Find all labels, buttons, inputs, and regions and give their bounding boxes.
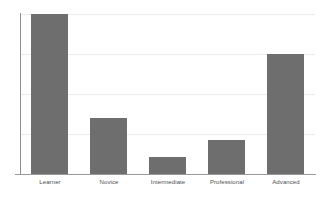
x-axis-line	[15, 174, 316, 175]
bar	[149, 157, 186, 174]
x-axis-tick-label: Advanced	[255, 178, 317, 186]
bar	[208, 140, 245, 174]
x-axis-tick-label: Learner	[19, 178, 81, 186]
plot-area	[20, 14, 315, 174]
x-axis-tick-label: Professional	[196, 178, 258, 186]
bar	[267, 54, 304, 174]
x-axis-tick-label: Novice	[78, 178, 140, 186]
bar-chart-figure: · · · · · · LearnerNoviceIntermediatePro…	[0, 0, 328, 201]
bar	[31, 14, 68, 174]
bar	[90, 118, 127, 174]
x-axis-tick-label: Intermediate	[137, 178, 199, 186]
